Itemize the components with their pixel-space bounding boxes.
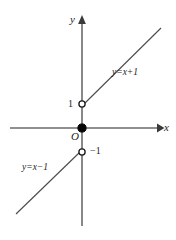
graph-figure: y x O 1 −1 y=x+1 y=x−1 — [0, 0, 176, 240]
origin-label: O — [71, 131, 79, 142]
filled-point-origin — [78, 124, 86, 132]
coordinate-plot-svg — [0, 0, 176, 240]
line-y-equals-x-plus-1 — [84, 28, 161, 104]
y-axis-arrowhead — [78, 15, 86, 24]
equation-label-upper: y=x+1 — [112, 68, 138, 78]
equation-label-lower: y=x−1 — [22, 163, 48, 173]
open-point-zero-negative-one — [79, 149, 85, 155]
tick-label-negative-one: −1 — [90, 146, 101, 156]
open-point-zero-one — [79, 101, 85, 107]
tick-label-positive-one: 1 — [68, 99, 73, 109]
x-axis-label: x — [164, 122, 169, 133]
y-axis-label: y — [70, 14, 75, 25]
